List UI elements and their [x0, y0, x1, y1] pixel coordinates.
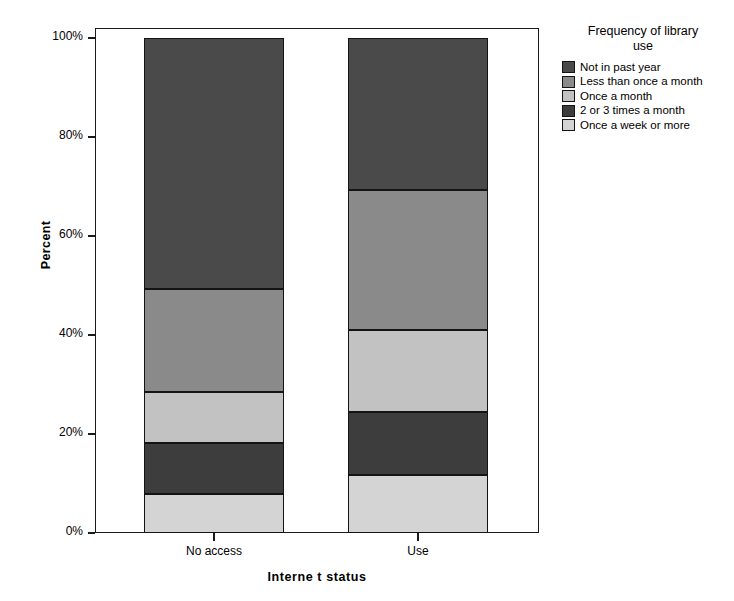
stacked-bar-chart: Percent 100%80%60%40%20%0% No accessUse …	[0, 0, 734, 601]
y-axis-tick-mark	[88, 532, 95, 534]
legend-item[interactable]: Not in past year	[562, 60, 730, 75]
legend-item-label: 2 or 3 times a month	[580, 104, 685, 117]
legend-items: Not in past yearLess than once a monthOn…	[562, 60, 730, 133]
bar-segment[interactable]	[144, 494, 284, 533]
x-axis-tick-mark	[213, 533, 215, 541]
legend-item-label: Once a week or more	[580, 119, 690, 132]
y-axis-tick-mark	[88, 334, 95, 336]
legend-item-label: Less than once a month	[580, 75, 703, 88]
y-axis-tick-label: 40%	[59, 326, 83, 340]
y-axis-tick-label: 60%	[59, 227, 83, 241]
x-axis-tick-label: No access	[144, 544, 284, 558]
bar-segment[interactable]	[348, 38, 488, 190]
y-axis-title: Percent	[39, 185, 53, 305]
legend-item[interactable]: Once a week or more	[562, 118, 730, 133]
legend-item[interactable]: Less than once a month	[562, 75, 730, 90]
bar-segment[interactable]	[348, 330, 488, 412]
legend-item[interactable]: 2 or 3 times a month	[562, 104, 730, 119]
legend-item[interactable]: Once a month	[562, 89, 730, 104]
legend-swatch-icon	[562, 105, 575, 117]
y-axis-tick-label: 80%	[59, 128, 83, 142]
bar-no-access[interactable]	[144, 38, 284, 533]
legend-swatch-icon	[562, 90, 575, 102]
bar-segment[interactable]	[144, 289, 284, 392]
x-axis-title: Interne t status	[95, 570, 539, 584]
legend-swatch-icon	[562, 76, 575, 88]
legend-item-label: Once a month	[580, 90, 652, 103]
legend-swatch-icon	[562, 119, 575, 131]
legend-title-line-1: Frequency of library	[562, 24, 724, 39]
legend-swatch-icon	[562, 61, 575, 73]
y-axis-tick-label: 0%	[66, 524, 83, 538]
bar-segment[interactable]	[348, 412, 488, 475]
x-axis-tick-label: Use	[348, 544, 488, 558]
legend-item-label: Not in past year	[580, 61, 661, 74]
bar-segment[interactable]	[348, 190, 488, 330]
y-axis-tick-mark	[88, 433, 95, 435]
x-axis-tick-mark	[417, 533, 419, 541]
y-axis-tick-mark	[88, 235, 95, 237]
legend-title-line-2: use	[562, 39, 724, 54]
legend: Frequency of library use Not in past yea…	[562, 24, 730, 133]
bar-segment[interactable]	[144, 38, 284, 289]
y-axis-tick-label: 20%	[59, 425, 83, 439]
legend-title: Frequency of library use	[562, 24, 724, 54]
bar-segment[interactable]	[348, 475, 488, 533]
y-axis-tick-mark	[88, 136, 95, 138]
bar-use[interactable]	[348, 38, 488, 533]
bars-layer	[95, 28, 539, 533]
bar-segment[interactable]	[144, 443, 284, 494]
y-axis-tick-mark	[88, 37, 95, 39]
y-axis-tick-label: 100%	[52, 29, 83, 43]
bar-segment[interactable]	[144, 392, 284, 443]
